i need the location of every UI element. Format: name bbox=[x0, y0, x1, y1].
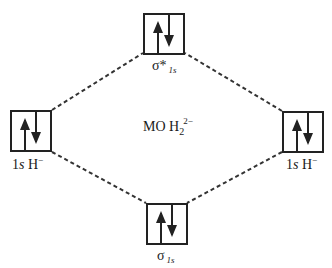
connector-right-to-sigma bbox=[187, 152, 282, 203]
orbital-box-sigma-star-1s bbox=[143, 13, 185, 55]
label-subscript: 1s bbox=[167, 255, 175, 265]
label-rest: H bbox=[298, 157, 312, 172]
orbital-label-sigma-1s: σ1s bbox=[157, 248, 175, 265]
label-superscript: − bbox=[312, 155, 317, 165]
spin-up-arrow-icon bbox=[157, 23, 159, 53]
spin-up-arrow-icon bbox=[160, 213, 162, 243]
label-main: 1 bbox=[12, 157, 19, 172]
center-label-subscript: 2 bbox=[179, 126, 184, 137]
connector-left-to-sigma bbox=[52, 152, 146, 203]
diagram-title-label: MO H22− bbox=[143, 116, 193, 137]
orbital-label-right-1s-H: 1s H− bbox=[286, 155, 317, 173]
label-main: σ bbox=[157, 248, 165, 263]
spin-up-arrow-icon bbox=[24, 120, 26, 150]
orbital-label-left-1s-H: 1s H− bbox=[12, 155, 43, 173]
spin-down-arrow-icon bbox=[307, 113, 309, 143]
label-rest: H bbox=[24, 157, 38, 172]
label-subscript: 1s bbox=[169, 65, 177, 75]
orbital-label-sigma-star-1s: σ*1s bbox=[152, 58, 177, 75]
label-superscript: − bbox=[38, 155, 43, 165]
label-main: 1 bbox=[286, 157, 293, 172]
spin-down-arrow-icon bbox=[35, 112, 37, 142]
label-main: σ* bbox=[152, 58, 167, 73]
connector-left-to-sigma-star bbox=[52, 53, 143, 110]
spin-up-arrow-icon bbox=[296, 121, 298, 151]
spin-down-arrow-icon bbox=[168, 15, 170, 45]
orbital-box-right-1s-H bbox=[282, 111, 324, 153]
orbital-box-sigma-1s bbox=[146, 203, 188, 245]
center-label-superscript: 2− bbox=[183, 116, 193, 126]
connector-right-to-sigma-star bbox=[185, 53, 282, 111]
center-label-prefix: MO H bbox=[143, 119, 179, 134]
orbital-box-left-1s-H bbox=[10, 110, 52, 152]
spin-down-arrow-icon bbox=[171, 205, 173, 235]
